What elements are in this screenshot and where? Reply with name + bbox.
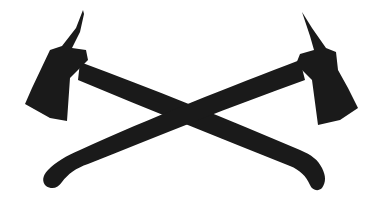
crossed-axes-graphic — [0, 0, 382, 205]
crossed-axes-illustration: Two crossed firefighter pick-head axes s… — [0, 0, 382, 205]
